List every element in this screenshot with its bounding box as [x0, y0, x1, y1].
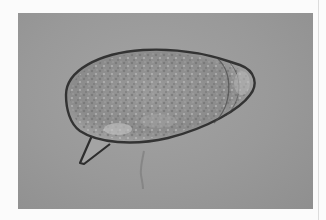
filament [141, 151, 144, 189]
page-edge-line [318, 0, 319, 220]
egg-illustration [18, 13, 313, 209]
micrograph-photo [18, 13, 313, 209]
figure-page: Parasite egg with lateral spine (light m… [0, 0, 326, 220]
